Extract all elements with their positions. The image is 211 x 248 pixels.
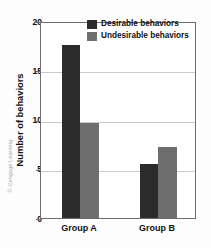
legend-swatch-undesirable <box>87 32 97 41</box>
legend-swatch-desirable <box>87 20 97 29</box>
bar <box>140 164 159 218</box>
chart-legend: Desirable behaviorsUndesirable behaviors <box>87 19 189 43</box>
plot-area <box>40 22 196 219</box>
legend-item: Desirable behaviors <box>87 19 189 29</box>
x-tick-label: Group B <box>117 223 197 234</box>
bar <box>80 123 99 218</box>
bar <box>62 45 81 218</box>
legend-item-label: Desirable behaviors <box>101 19 179 29</box>
x-tick-label: Group A <box>39 223 119 234</box>
y-tick-mark <box>36 219 40 220</box>
legend-item: Undesirable behaviors <box>87 31 189 41</box>
bar-chart-figure: © Cengage Learning Number of behaviors 0… <box>0 0 211 248</box>
bar <box>158 147 177 218</box>
legend-item-label: Undesirable behaviors <box>101 31 189 41</box>
